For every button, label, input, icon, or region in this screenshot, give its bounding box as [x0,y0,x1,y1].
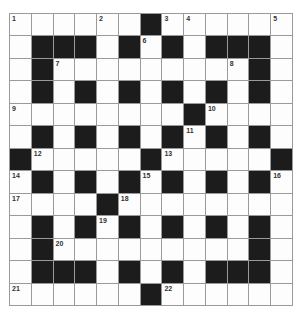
grid-cell[interactable] [228,284,249,305]
grid-cell[interactable] [75,284,96,305]
grid-cell[interactable] [75,59,96,80]
grid-cell[interactable] [141,261,162,282]
grid-cell[interactable] [54,104,75,125]
grid-cell[interactable] [141,104,162,125]
grid-cell[interactable]: 6 [141,36,162,57]
grid-cell[interactable] [141,126,162,147]
grid-cell[interactable] [75,194,96,215]
grid-cell[interactable] [184,239,205,260]
grid-cell[interactable] [54,81,75,102]
grid-cell[interactable]: 21 [10,284,31,305]
grid-cell[interactable] [54,171,75,192]
grid-cell[interactable] [141,194,162,215]
grid-cell[interactable] [184,171,205,192]
grid-cell[interactable] [206,194,227,215]
grid-cell[interactable] [54,284,75,305]
grid-cell[interactable] [97,126,118,147]
grid-cell[interactable] [141,81,162,102]
grid-cell[interactable] [228,239,249,260]
grid-cell[interactable] [228,149,249,170]
grid-cell[interactable] [97,284,118,305]
grid-cell[interactable] [97,36,118,57]
grid-cell[interactable] [97,104,118,125]
grid-cell[interactable] [249,104,270,125]
grid-cell[interactable] [206,14,227,35]
grid-cell[interactable] [184,284,205,305]
grid-cell[interactable]: 10 [206,104,227,125]
grid-cell[interactable] [119,149,140,170]
grid-cell[interactable] [10,36,31,57]
grid-cell[interactable] [10,239,31,260]
grid-cell[interactable] [54,14,75,35]
grid-cell[interactable] [271,194,292,215]
grid-cell[interactable] [97,261,118,282]
grid-cell[interactable] [97,171,118,192]
grid-cell[interactable]: 4 [184,14,205,35]
grid-cell[interactable] [32,194,53,215]
grid-cell[interactable] [75,239,96,260]
grid-cell[interactable] [184,36,205,57]
grid-cell[interactable] [141,239,162,260]
grid-cell[interactable] [75,14,96,35]
grid-cell[interactable] [271,36,292,57]
grid-cell[interactable] [271,126,292,147]
grid-cell[interactable] [271,216,292,237]
grid-cell[interactable] [184,149,205,170]
grid-cell[interactable] [206,239,227,260]
grid-cell[interactable]: 12 [32,149,53,170]
grid-cell[interactable] [54,194,75,215]
grid-cell[interactable] [141,59,162,80]
grid-cell[interactable] [32,14,53,35]
grid-cell[interactable] [10,81,31,102]
grid-cell[interactable] [271,104,292,125]
grid-cell[interactable] [32,104,53,125]
grid-cell[interactable]: 18 [119,194,140,215]
grid-cell[interactable] [249,14,270,35]
grid-cell[interactable] [162,104,183,125]
grid-cell[interactable] [119,284,140,305]
grid-cell[interactable] [54,216,75,237]
grid-cell[interactable] [141,216,162,237]
grid-cell[interactable] [206,284,227,305]
grid-cell[interactable] [97,149,118,170]
grid-cell[interactable] [249,194,270,215]
grid-cell[interactable] [10,59,31,80]
grid-cell[interactable]: 13 [162,149,183,170]
grid-cell[interactable]: 20 [54,239,75,260]
grid-cell[interactable]: 5 [271,14,292,35]
grid-cell[interactable] [54,126,75,147]
grid-cell[interactable] [228,126,249,147]
grid-cell[interactable] [206,59,227,80]
grid-cell[interactable] [184,59,205,80]
grid-cell[interactable] [184,261,205,282]
grid-cell[interactable] [75,149,96,170]
grid-cell[interactable] [206,149,227,170]
grid-cell[interactable] [54,149,75,170]
grid-cell[interactable]: 11 [184,126,205,147]
grid-cell[interactable] [119,59,140,80]
grid-cell[interactable] [271,81,292,102]
grid-cell[interactable] [228,81,249,102]
grid-cell[interactable] [162,59,183,80]
grid-cell[interactable]: 22 [162,284,183,305]
grid-cell[interactable] [75,104,96,125]
grid-cell[interactable] [271,59,292,80]
grid-cell[interactable]: 2 [97,14,118,35]
grid-cell[interactable] [249,149,270,170]
grid-cell[interactable]: 9 [10,104,31,125]
grid-cell[interactable] [119,14,140,35]
grid-cell[interactable] [228,14,249,35]
grid-cell[interactable]: 7 [54,59,75,80]
grid-cell[interactable] [228,171,249,192]
grid-cell[interactable] [162,194,183,215]
grid-cell[interactable] [162,239,183,260]
grid-cell[interactable] [10,126,31,147]
grid-cell[interactable] [97,59,118,80]
grid-cell[interactable]: 15 [141,171,162,192]
grid-cell[interactable] [271,261,292,282]
grid-cell[interactable] [228,216,249,237]
grid-cell[interactable]: 17 [10,194,31,215]
grid-cell[interactable]: 14 [10,171,31,192]
grid-cell[interactable] [271,239,292,260]
grid-cell[interactable]: 16 [271,171,292,192]
